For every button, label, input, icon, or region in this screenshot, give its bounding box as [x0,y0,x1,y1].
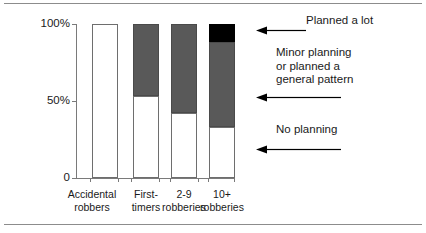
segment-minor-planning [209,42,235,127]
x-tick-0 [90,178,91,182]
arrow-to-minor-planning-segment [256,93,341,102]
x-tick-1 [118,178,119,182]
segment-no-planning [92,24,118,178]
stacked-bar-chart: 100% 50% 0 Accidental robbers First- tim… [0,0,426,233]
x-label-line1: 10+ [185,188,259,201]
arrow-to-planned-a-lot-segment [256,26,306,35]
bar-accidental-robbers [92,24,118,178]
y-axis-label-0: 0 [10,172,70,183]
bar-2-9-robberies [171,24,197,178]
x-tick-2 [131,178,132,182]
segment-no-planning [171,113,197,178]
y-axis-label-100: 100% [10,18,70,29]
segment-no-planning [133,96,159,178]
segment-no-planning [209,127,235,178]
x-label-10-plus-robberies: 10+ robberies [185,188,259,213]
x-tick-3 [159,178,160,182]
annotation-planned-a-lot: Planned a lot [306,14,373,28]
x-tick-6 [208,178,209,182]
x-axis-line [76,178,235,179]
annotation-minor-planning: Minor planning or planned a general patt… [276,46,353,87]
x-tick-5 [198,178,199,182]
segment-planned-a-lot [209,24,235,42]
annotation-no-planning: No planning [276,123,337,137]
segment-minor-planning [133,24,159,96]
x-tick-7 [234,178,235,182]
y-axis-line [76,24,77,179]
x-label-line2: robberies [185,201,259,214]
y-tick-50 [72,101,76,102]
x-tick-4 [170,178,171,182]
y-tick-100 [72,24,76,25]
bar-first-timers [133,24,159,178]
segment-minor-planning [171,24,197,113]
bar-10-plus-robberies [209,24,235,178]
y-axis-label-50: 50% [10,95,70,106]
arrow-to-no-planning-segment [256,145,341,154]
y-tick-0 [72,178,76,179]
